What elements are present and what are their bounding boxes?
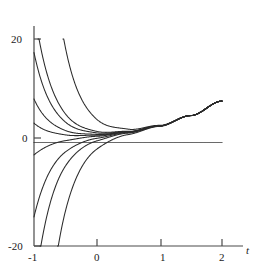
x-tick-label-1: 1 bbox=[160, 252, 166, 263]
plot-canvas bbox=[0, 0, 260, 273]
y-tick-label-20: 20 bbox=[11, 34, 22, 45]
solution-curve-9 bbox=[58, 101, 223, 246]
solution-curve-0 bbox=[63, 39, 222, 129]
solution-curves bbox=[34, 39, 222, 246]
solution-curve-1 bbox=[38, 39, 222, 132]
x-tick-label-0: 0 bbox=[94, 252, 100, 263]
y-tick-label-0: 0 bbox=[22, 133, 28, 144]
solution-family-figure: 20 0 -20 -1 0 1 2 t bbox=[0, 0, 260, 273]
solution-curve-2 bbox=[34, 53, 222, 134]
y-tick-label-minus-20: -20 bbox=[8, 241, 23, 252]
x-axis-label: t bbox=[246, 245, 249, 256]
x-tick-label-2: 2 bbox=[219, 252, 225, 263]
solution-curve-8 bbox=[40, 101, 222, 246]
x-tick-label-minus-1: -1 bbox=[28, 252, 37, 263]
x-axis-tick-marks bbox=[97, 239, 222, 246]
